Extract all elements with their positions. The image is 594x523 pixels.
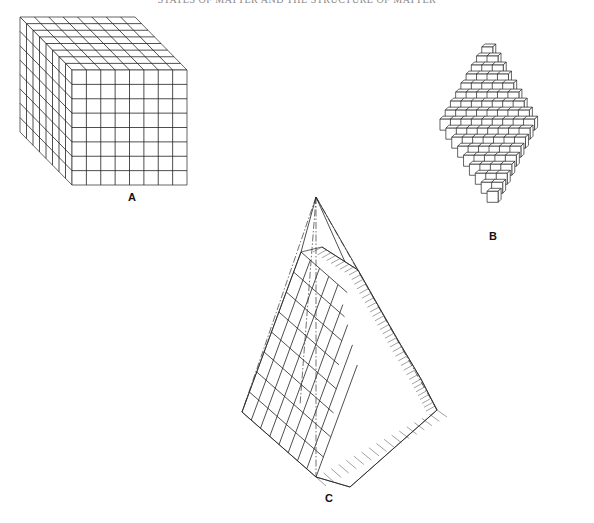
figure-a-cube: [20, 17, 187, 185]
figure-b-label: B: [489, 230, 497, 242]
figure-b-octahedron: [440, 44, 538, 202]
figure-a-label: A: [128, 191, 136, 203]
illustration-canvas: [0, 0, 594, 523]
figure-c-label: C: [325, 492, 333, 504]
figure-c-stepped-pyramid: [242, 197, 447, 487]
